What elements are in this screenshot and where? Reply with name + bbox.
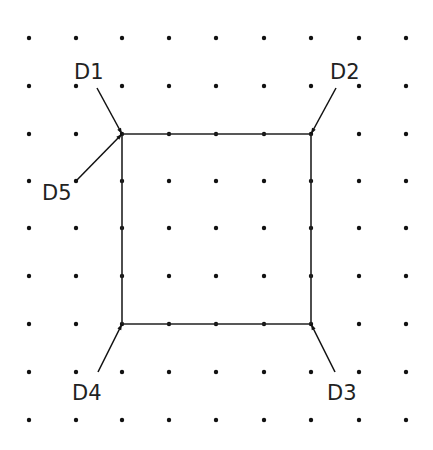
- grid-dot: [167, 370, 171, 374]
- grid-dot: [74, 132, 78, 136]
- grid-dot: [74, 370, 78, 374]
- grid-dot: [27, 84, 31, 88]
- grid-dot: [262, 274, 266, 278]
- grid-dot: [404, 274, 408, 278]
- grid-dot: [357, 84, 361, 88]
- grid-dot: [167, 274, 171, 278]
- pointer-leaders: [76, 88, 336, 372]
- grid-dot: [27, 36, 31, 40]
- leader-arrow-d3: [311, 324, 335, 372]
- grid-dot: [404, 132, 408, 136]
- grid-dot: [357, 132, 361, 136]
- grid-dot: [167, 226, 171, 230]
- grid-dot: [214, 370, 218, 374]
- grid-dot: [27, 322, 31, 326]
- dot-grid: [27, 36, 408, 422]
- grid-dot: [74, 418, 78, 422]
- grid-dot: [309, 370, 313, 374]
- grid-dot: [357, 322, 361, 326]
- grid-dot: [404, 322, 408, 326]
- leader-arrow-d2: [311, 88, 336, 134]
- grid-dot: [27, 226, 31, 230]
- grid-dot: [214, 226, 218, 230]
- grid-dot: [262, 370, 266, 374]
- grid-dot: [74, 322, 78, 326]
- grid-dot: [214, 36, 218, 40]
- grid-dot: [167, 36, 171, 40]
- grid-dot: [74, 274, 78, 278]
- grid-dot: [357, 370, 361, 374]
- grid-dot: [404, 418, 408, 422]
- grid-dot: [214, 274, 218, 278]
- grid-dot: [120, 370, 124, 374]
- grid-dot: [357, 274, 361, 278]
- grid-dot: [309, 36, 313, 40]
- grid-dot: [357, 226, 361, 230]
- grid-dot: [262, 36, 266, 40]
- label-d2: D2: [330, 60, 360, 84]
- leader-arrow-d4: [98, 324, 122, 372]
- grid-dot: [167, 418, 171, 422]
- grid-dot: [120, 84, 124, 88]
- grid-dot: [27, 370, 31, 374]
- grid-dot: [357, 179, 361, 183]
- label-d1: D1: [74, 60, 104, 84]
- label-d5: D5: [42, 181, 72, 205]
- grid-dot: [404, 370, 408, 374]
- grid-dot: [167, 84, 171, 88]
- grid-dot: [309, 84, 313, 88]
- grid-dot: [214, 84, 218, 88]
- label-d3: D3: [327, 381, 357, 405]
- grid-dot: [262, 418, 266, 422]
- grid-dot: [120, 36, 124, 40]
- grid-dot: [262, 226, 266, 230]
- grid-dot: [357, 36, 361, 40]
- pointer-labels: D1D2D3D4D5: [42, 60, 360, 405]
- cad-diagram: D1D2D3D4D5: [0, 0, 433, 450]
- leader-arrow-d5: [76, 134, 122, 181]
- grid-dot: [214, 179, 218, 183]
- grid-dot: [74, 226, 78, 230]
- grid-dot: [404, 84, 408, 88]
- grid-dot: [357, 418, 361, 422]
- grid-dot: [404, 226, 408, 230]
- grid-dot: [27, 179, 31, 183]
- grid-dot: [262, 84, 266, 88]
- grid-dot: [27, 418, 31, 422]
- grid-dot: [74, 36, 78, 40]
- grid-dot: [262, 179, 266, 183]
- grid-dot: [167, 179, 171, 183]
- grid-dot: [404, 36, 408, 40]
- leader-arrow-d1: [97, 88, 122, 134]
- grid-dot: [214, 418, 218, 422]
- grid-dot: [27, 274, 31, 278]
- grid-dot: [27, 132, 31, 136]
- label-d4: D4: [72, 381, 102, 405]
- grid-dot: [404, 179, 408, 183]
- grid-dot: [120, 418, 124, 422]
- grid-dot: [309, 418, 313, 422]
- grid-dot: [74, 84, 78, 88]
